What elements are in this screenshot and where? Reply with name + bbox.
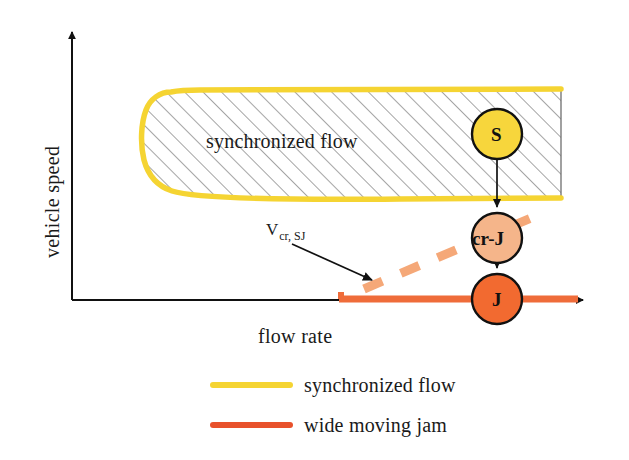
- legend-label-synchronized-flow: synchronized flow: [304, 375, 456, 395]
- critical-speed-symbol: V: [266, 220, 278, 239]
- annotation-arrow: [292, 244, 372, 280]
- state-node-S-label: S: [491, 125, 502, 144]
- legend-swatches: [213, 385, 290, 425]
- x-axis-label: flow rate: [258, 326, 332, 346]
- synchronized-flow-region-label: synchronized flow: [206, 131, 358, 151]
- state-node-J-label: J: [492, 290, 502, 309]
- y-axis-label: vehicle speed: [42, 146, 62, 258]
- critical-speed-subscript: cr, SJ: [279, 229, 305, 243]
- legend-label-wide-moving-jam: wide moving jam: [304, 415, 447, 435]
- critical-speed-annotation-arrow: [292, 244, 372, 280]
- wide-moving-jam-line: [339, 292, 578, 299]
- traffic-phase-diagram: vehicle speed flow rate synchronized flo…: [0, 0, 629, 460]
- state-node-crJ-label: cr-J: [472, 229, 504, 248]
- critical-speed-label: Vcr, SJ: [266, 221, 304, 238]
